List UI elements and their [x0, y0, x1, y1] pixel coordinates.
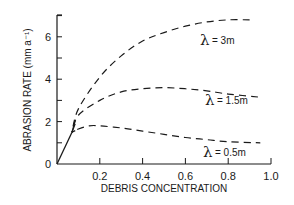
x-tick-label: 0.2 — [92, 170, 107, 182]
initial-solid-segment — [57, 132, 72, 164]
lambda-symbol: λ — [205, 91, 215, 109]
lambda-symbol: λ — [203, 143, 213, 161]
y-tick-label: 0 — [45, 158, 51, 170]
x-tick-label: 0.8 — [221, 170, 236, 182]
lambda-symbol: λ — [200, 31, 210, 49]
x-axis-title: DEBRIS CONCENTRATION — [101, 183, 228, 194]
y-ticks: 0246 — [45, 16, 62, 170]
series-label-text: = 3m — [212, 35, 235, 46]
x-tick-label: 1.0 — [263, 170, 278, 182]
series-label: λ= 3m — [200, 31, 235, 49]
x-tick-label: 0.4 — [135, 170, 150, 182]
series-label: λ= 1.5m — [205, 91, 248, 109]
x-ticks: 0.20.40.60.81.0 — [92, 158, 278, 182]
y-axis-title: ABRASION RATE (mm a⁻¹) — [22, 28, 33, 151]
series-label-text: = 0.5m — [215, 147, 246, 158]
curve-0-5m — [72, 126, 260, 143]
axes — [57, 15, 271, 164]
x-tick-label: 0.6 — [178, 170, 193, 182]
abrasion-rate-chart: ABRASION RATE (mm a⁻¹) 0246 0.20.40.60.8… — [0, 0, 294, 205]
series-label: λ= 0.5m — [203, 143, 246, 161]
y-tick-label: 2 — [45, 116, 51, 128]
y-tick-label: 6 — [45, 31, 51, 43]
y-tick-label: 4 — [45, 73, 51, 85]
series-label-text: = 1.5m — [217, 95, 248, 106]
